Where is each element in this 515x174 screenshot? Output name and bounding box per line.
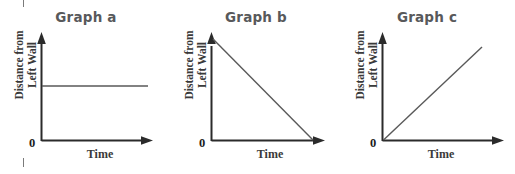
graph-b-x-axis-arrowhead bbox=[313, 136, 325, 145]
graph-c-data-line bbox=[384, 47, 483, 140]
graph-b-y-axis-arrowhead bbox=[207, 32, 216, 44]
graph-a-x-axis-label: Time bbox=[45, 147, 155, 162]
graphs-figure: Graph a Distance from Left Wall 0 Time G… bbox=[0, 0, 515, 174]
graph-c-x-axis-label: Time bbox=[386, 147, 496, 162]
graph-panel-b: Graph b Distance from Left Wall 0 Time bbox=[170, 0, 342, 174]
graph-c-y-axis-arrowhead bbox=[378, 32, 387, 44]
graph-a-origin-label: 0 bbox=[29, 136, 35, 151]
graph-panel-c: Graph c Distance from Left Wall 0 Time bbox=[341, 0, 513, 174]
graph-panel-a: Graph a Distance from Left Wall 0 Time bbox=[0, 0, 172, 174]
graph-a-y-axis-arrowhead bbox=[37, 32, 46, 44]
graph-c-x-axis-arrowhead bbox=[492, 136, 504, 145]
graph-b-data-line bbox=[213, 39, 313, 140]
graph-b-origin-label: 0 bbox=[199, 136, 205, 151]
graph-b-x-axis-label: Time bbox=[215, 147, 325, 162]
graph-a-x-axis-arrowhead bbox=[141, 136, 153, 145]
graph-c-origin-label: 0 bbox=[370, 136, 376, 151]
